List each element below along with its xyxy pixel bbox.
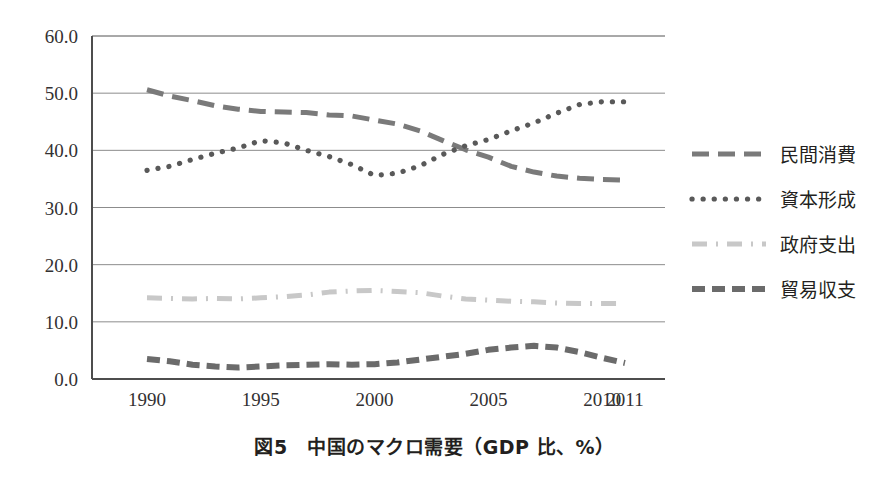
y-tick-label: 50.0 — [45, 83, 78, 104]
y-tick-label: 30.0 — [45, 198, 78, 219]
y-tick-label: 60.0 — [45, 26, 78, 47]
figure-caption: 図5 中国のマクロ需要（GDP 比、%） — [0, 432, 869, 459]
data-series-group — [147, 90, 625, 368]
legend-label-貿易収支: 貿易収支 — [780, 279, 856, 301]
y-axis-tick-labels: 0.010.020.030.040.050.060.0 — [45, 26, 78, 390]
y-tick-label: 40.0 — [45, 140, 78, 161]
x-tick-label: 2000 — [356, 389, 394, 410]
legend-label-資本形成: 資本形成 — [780, 189, 856, 211]
figure-container: 0.010.020.030.040.050.060.0 199019952000… — [0, 0, 869, 478]
chart-legend: 民間消費資本形成政府支出貿易収支 — [692, 144, 856, 301]
x-tick-label: 2011 — [606, 389, 643, 410]
x-axis-tick-labels: 199019952000200520102011 — [128, 389, 644, 410]
y-tick-label: 10.0 — [45, 312, 78, 333]
y-tick-label: 0.0 — [54, 369, 78, 390]
y-tick-label: 20.0 — [45, 255, 78, 276]
series-line-資本形成 — [147, 102, 625, 176]
x-tick-label: 2005 — [469, 389, 507, 410]
macro-demand-line-chart: 0.010.020.030.040.050.060.0 199019952000… — [0, 0, 869, 478]
series-line-民間消費 — [147, 90, 625, 180]
legend-label-政府支出: 政府支出 — [780, 234, 856, 256]
legend-label-民間消費: 民間消費 — [780, 144, 856, 166]
x-tick-label: 1995 — [242, 389, 280, 410]
series-line-政府支出 — [147, 290, 625, 303]
x-tick-label: 1990 — [128, 389, 166, 410]
series-line-貿易収支 — [147, 346, 625, 368]
